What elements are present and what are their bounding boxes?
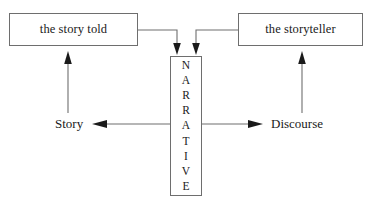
arrowhead-right [248, 120, 263, 128]
narrative-letter: N [182, 58, 190, 73]
arrowhead-left [92, 120, 107, 128]
edge-story-to-story-told [64, 51, 72, 113]
arrowhead-up-left [64, 51, 72, 64]
edge-discourse-to-storyteller [298, 51, 306, 113]
node-label-story-told: the story told [40, 23, 107, 36]
narrative-letter: A [182, 118, 190, 133]
narrative-letter: R [182, 88, 190, 103]
node-narrative: N A R R A T I V E [170, 56, 202, 196]
narrative-letter: E [182, 179, 189, 194]
node-the-story-told: the story told [9, 13, 138, 46]
label-discourse: Discourse [271, 117, 323, 130]
narrative-letter: I [184, 149, 188, 164]
narrative-letter: V [182, 164, 190, 179]
node-label-storyteller: the storyteller [265, 23, 336, 36]
narrative-letter: A [182, 73, 190, 88]
narrative-letter: R [182, 103, 190, 118]
arrowhead-up-right [298, 51, 306, 64]
node-the-storyteller: the storyteller [238, 13, 363, 46]
arrowhead-down-left [173, 43, 181, 55]
node-label-narrative: N A R R A T I V E [182, 58, 190, 195]
edge-storyteller-to-narrative [192, 30, 238, 55]
arrowhead-down-right [192, 43, 200, 55]
label-story: Story [55, 117, 83, 130]
narrative-letter: T [182, 134, 189, 149]
edge-story-told-to-narrative [138, 30, 181, 55]
edge-narrative-to-discourse [202, 120, 263, 128]
narrative-diagram: the story told the storyteller N A R R A… [0, 0, 370, 206]
edge-narrative-to-story [92, 120, 170, 128]
